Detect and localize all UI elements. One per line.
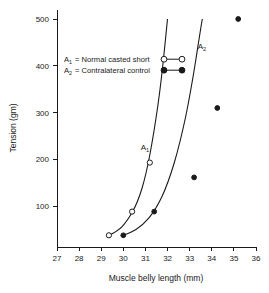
x-tick-label: 36: [252, 254, 261, 263]
data-point-a2: [152, 209, 157, 214]
legend-entry-a2-text: = Contralateral control: [75, 66, 150, 75]
y-tick-label: 300: [36, 109, 50, 118]
chart-plot-area: 500 400 300 200 100 27 28 29 30 31 32: [0, 0, 269, 293]
legend-filled-circle-icon: [179, 67, 185, 73]
chart-figure: 500 400 300 200 100 27 28 29 30 31 32: [0, 0, 269, 293]
x-tick-label: 27: [53, 254, 62, 263]
x-tick-label: 30: [119, 254, 128, 263]
data-point-a2: [121, 233, 126, 238]
x-axis-ticks: 27 28 29 30 31 32 33 34 35 36: [53, 247, 261, 263]
legend-entry-a2-subscript: 2: [69, 70, 72, 76]
series-a2-points: [121, 17, 241, 238]
x-tick-label: 28: [75, 254, 84, 263]
legend-open-circle-icon: [161, 56, 167, 62]
data-point-a1: [147, 160, 152, 165]
y-tick-label: 400: [36, 62, 50, 71]
y-axis-ticks: 500 400 300 200 100: [36, 15, 57, 211]
x-tick-label: 33: [185, 254, 194, 263]
legend-marker-a2: [161, 67, 185, 73]
legend-marker-a1: [161, 56, 185, 62]
legend-entry-a2: A2= Contralateral control: [64, 66, 150, 76]
series-a1-points: [106, 160, 152, 238]
chart-legend: A1= Normal casted short A2= Contralatera…: [64, 55, 185, 76]
series-a2-curve: [123, 19, 202, 235]
y-tick-label: 500: [36, 15, 50, 24]
x-tick-label: 32: [163, 254, 172, 263]
legend-entry-a1-text: = Normal casted short: [75, 55, 150, 64]
data-point-a1: [130, 209, 135, 214]
curve-label-a1: A1: [141, 143, 149, 153]
legend-open-circle-icon: [179, 56, 185, 62]
legend-filled-circle-icon: [161, 67, 167, 73]
x-tick-label: 34: [207, 254, 216, 263]
y-tick-label: 100: [36, 202, 50, 211]
x-axis-title: Muscle belly length (mm): [109, 273, 204, 283]
legend-entry-a1-subscript: 1: [69, 59, 72, 65]
data-point-a2: [192, 175, 197, 180]
x-tick-label: 31: [141, 254, 150, 263]
curve-label-a2-subscript: 2: [203, 46, 206, 52]
x-tick-label: 29: [97, 254, 106, 263]
data-point-a2: [215, 106, 220, 111]
y-tick-label: 200: [36, 155, 50, 164]
legend-entry-a1: A1= Normal casted short: [64, 55, 150, 65]
curve-label-a1-subscript: 1: [146, 147, 149, 153]
y-axis-title: Tension (gm): [8, 103, 18, 152]
curve-label-a2: A2: [198, 42, 206, 52]
x-tick-label: 35: [229, 254, 238, 263]
data-point-a2: [236, 17, 241, 22]
data-point-a1: [106, 233, 111, 238]
